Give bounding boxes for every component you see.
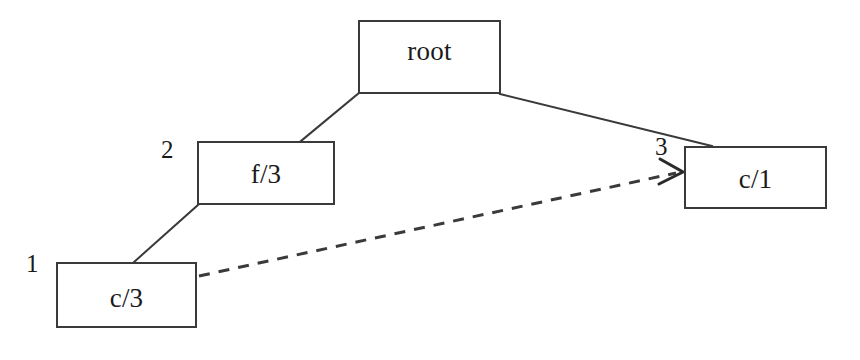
arrowhead-icon [659,159,683,184]
node-f3[interactable]: f/3 [197,141,335,205]
node-c1[interactable]: c/1 [684,146,827,209]
node-root[interactable]: root [358,20,501,94]
edge-f3-to-c3 [134,205,198,262]
node-c3[interactable]: c/3 [56,262,197,328]
node-c3-label: c/3 [110,285,144,312]
node-f3-index: 2 [161,137,174,162]
edge-root-to-c1 [500,94,712,146]
node-root-label: root [407,38,451,65]
edge-root-to-f3 [301,93,359,141]
node-f3-label: f/3 [251,161,282,188]
node-c1-label: c/1 [739,166,773,193]
node-c3-index: 1 [26,251,39,276]
diagram-canvas: root 2 f/3 3 c/1 1 c/3 [0,0,860,360]
node-c1-index: 3 [655,134,668,159]
